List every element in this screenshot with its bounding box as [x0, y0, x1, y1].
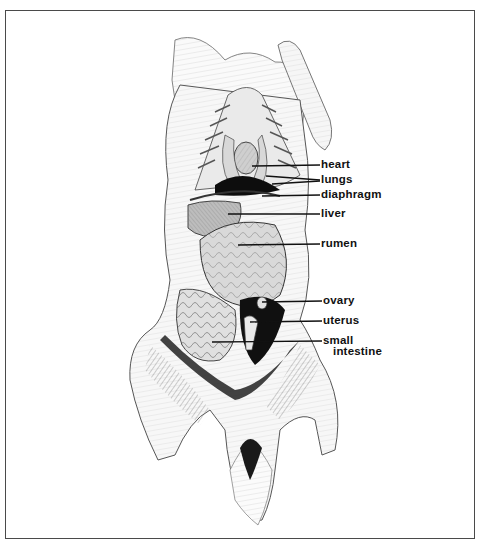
label-rumen: rumen	[321, 238, 357, 250]
label-ovary: ovary	[323, 295, 355, 307]
ovary-organ	[257, 297, 267, 309]
label-uterus: uterus	[323, 315, 359, 327]
label-lungs: lungs	[321, 174, 353, 186]
label-diaphragm: diaphragm	[321, 189, 382, 201]
anatomical-illustration	[0, 0, 481, 545]
label-small-intestine-line2: intestine	[333, 346, 382, 358]
label-liver: liver	[321, 208, 346, 220]
label-heart: heart	[321, 159, 350, 171]
